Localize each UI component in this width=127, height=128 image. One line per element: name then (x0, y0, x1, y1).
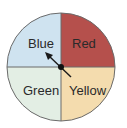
pointer-pivot (58, 64, 64, 70)
label-green: Green (23, 83, 59, 98)
label-red: Red (72, 36, 96, 51)
label-yellow: Yellow (69, 83, 107, 98)
label-blue: Blue (28, 36, 54, 51)
spinner-diagram: Blue Red Green Yellow (0, 0, 127, 128)
